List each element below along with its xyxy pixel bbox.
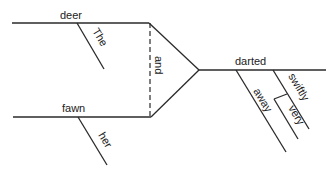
word-darted: darted <box>235 55 266 67</box>
converge-lower-line <box>151 70 199 117</box>
word-her: her <box>96 130 115 150</box>
modifier-very-connector <box>274 94 287 99</box>
word-fawn: fawn <box>62 102 85 114</box>
word-the: The <box>90 26 110 48</box>
sentence-diagram: deer The fawn her and darted away swiftl… <box>0 0 336 179</box>
modifier-away-line <box>236 70 286 152</box>
word-deer: deer <box>60 9 82 21</box>
word-and: and <box>153 56 165 74</box>
